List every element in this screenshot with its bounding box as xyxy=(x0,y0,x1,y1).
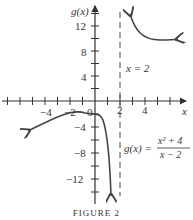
figure: −4 −2 0 2 4 x g(x) 12 8 4 −4 −8 xyxy=(0,0,193,220)
y-tick-label: 8 xyxy=(81,46,87,58)
x-tick-label: 4 xyxy=(142,104,148,116)
figure-caption: FIGURE 2 xyxy=(0,208,193,218)
y-tick-label: −12 xyxy=(66,173,83,185)
curve-right-branch xyxy=(130,14,178,40)
svg-text:x − 2: x − 2 xyxy=(159,149,181,160)
graph-canvas: −4 −2 0 2 4 x g(x) 12 8 4 −4 −8 xyxy=(0,0,193,220)
svg-text:g(x) =: g(x) = xyxy=(124,142,152,155)
asymptote-label: x = 2 xyxy=(125,62,150,74)
y-axis-label: g(x) xyxy=(71,5,89,18)
function-label: g(x) = x² + 4 x − 2 xyxy=(124,135,190,160)
x-tick-label: −4 xyxy=(40,106,52,118)
y-tick-label: 12 xyxy=(75,20,86,32)
x-axis-label: x xyxy=(181,105,187,117)
y-tick-label: −4 xyxy=(74,121,86,133)
svg-text:x² + 4: x² + 4 xyxy=(157,135,182,146)
x-tick-label: 0 xyxy=(87,106,93,118)
y-tick-label: −8 xyxy=(74,147,86,159)
y-tick-label: 4 xyxy=(81,71,87,83)
